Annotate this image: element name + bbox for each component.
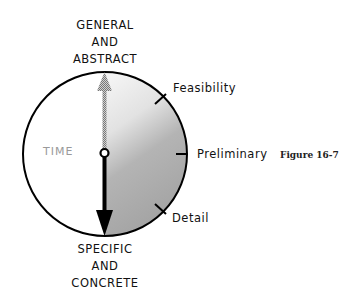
top-label-line-2: AND bbox=[68, 34, 142, 51]
figure-caption: Figure 16-7 bbox=[280, 150, 339, 160]
top-label-line-1: GENERAL bbox=[68, 17, 142, 34]
top-label: GENERAL AND ABSTRACT bbox=[68, 17, 142, 68]
bottom-label: SPECIFIC AND CONCRETE bbox=[64, 241, 146, 292]
preliminary-label: Preliminary bbox=[197, 147, 267, 161]
clock-pivot bbox=[101, 149, 109, 157]
feasibility-label: Feasibility bbox=[173, 81, 236, 95]
top-label-line-3: ABSTRACT bbox=[68, 51, 142, 68]
bottom-label-line-2: AND bbox=[64, 258, 146, 275]
bottom-label-line-3: CONCRETE bbox=[64, 275, 146, 292]
bottom-label-line-1: SPECIFIC bbox=[64, 241, 146, 258]
detail-label: Detail bbox=[172, 211, 209, 225]
time-label: TIME bbox=[43, 145, 73, 158]
